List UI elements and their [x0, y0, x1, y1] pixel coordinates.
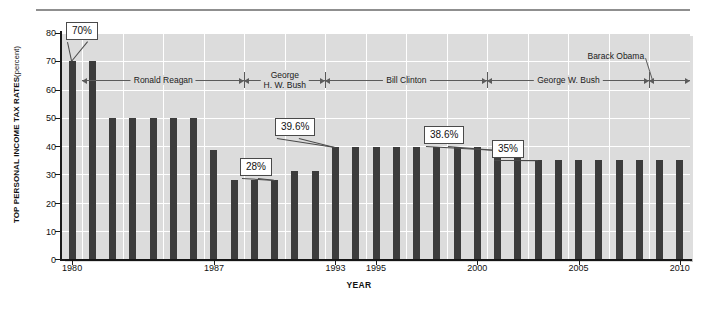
gridline-h-60 [62, 90, 690, 91]
y-tick-70 [55, 61, 60, 62]
x-tick-label-2010: 2010 [670, 263, 690, 273]
gridline-v [285, 33, 286, 259]
y-tick-label-40: 40 [32, 143, 56, 152]
y-tick-30 [55, 174, 60, 175]
bar-2007 [616, 160, 623, 259]
gridline-h-80 [62, 33, 690, 34]
plot-shadow-bottom [65, 259, 693, 262]
bar-1992 [312, 171, 319, 259]
bar-1999 [454, 147, 461, 259]
gridline-v [609, 33, 610, 259]
y-tick-10 [55, 231, 60, 232]
bar-1993 [332, 147, 339, 259]
bar-1996 [393, 147, 400, 259]
bar-1980 [69, 61, 76, 259]
plot-area: Ronald ReaganGeorgeH. W. BushBill Clinto… [62, 33, 690, 259]
bar-1987 [210, 150, 217, 259]
gridline-h-70 [62, 61, 690, 62]
callout-35: 35% [492, 140, 524, 158]
bar-2003 [535, 160, 542, 259]
y-axis-title-main: TOP PERSONAL INCOME TAX RATES [12, 77, 21, 223]
gridline-v [163, 33, 164, 259]
y-tick-50 [55, 118, 60, 119]
chart-root: 80 70 60 50 40 30 20 10 0 TOP PERSONAL I… [0, 0, 718, 316]
gridline-v [568, 33, 569, 259]
bar-2008 [636, 160, 643, 259]
y-tick-label-80: 80 [32, 29, 56, 38]
top-divider-rule [36, 9, 690, 11]
y-tick-0 [55, 259, 60, 260]
gridline-v [366, 33, 367, 259]
bar-2001 [494, 150, 501, 259]
gridline-v [82, 33, 83, 259]
bar-2006 [595, 160, 602, 259]
presidency-label-obama: Barack Obama [587, 51, 644, 61]
y-tick-label-20: 20 [32, 200, 56, 209]
y-tick-label-70: 70 [32, 57, 56, 66]
y-tick-label-10: 10 [32, 228, 56, 237]
y-tick-40 [55, 146, 60, 147]
bar-1982 [109, 118, 116, 259]
bar-1984 [150, 118, 157, 259]
y-tick-label-0: 0 [32, 256, 56, 265]
y-tick-60 [55, 90, 60, 91]
y-axis-title: TOP PERSONAL INCOME TAX RATES(percent) [12, 35, 21, 235]
y-tick-label-60: 60 [32, 86, 56, 95]
x-tick-label-1980: 1980 [62, 263, 82, 273]
callout-leader [510, 160, 538, 161]
callout-70: 70% [66, 22, 98, 40]
y-axis-title-unit: (percent) [12, 46, 21, 77]
bar-1990 [271, 180, 278, 259]
plot-shadow-right [690, 36, 693, 262]
bar-1986 [190, 118, 197, 259]
gridline-v [487, 33, 488, 259]
bar-1997 [413, 147, 420, 259]
bar-2002 [514, 150, 521, 259]
bar-1988 [231, 180, 238, 259]
gridline-v [123, 33, 124, 259]
bar-1998 [433, 147, 440, 259]
y-tick-80 [55, 33, 60, 34]
x-tick-label-1993: 1993 [325, 263, 345, 273]
bar-2000 [474, 147, 481, 259]
x-axis-title: YEAR [0, 280, 718, 290]
y-tick-label-50: 50 [32, 114, 56, 123]
gridline-v [649, 33, 650, 259]
bar-2005 [575, 160, 582, 259]
bar-1995 [373, 147, 380, 259]
y-tick-label-30: 30 [32, 171, 56, 180]
callout-28: 28% [240, 158, 272, 176]
y-tick-20 [55, 203, 60, 204]
gridline-v [244, 33, 245, 259]
gridline-v [204, 33, 205, 259]
gridline-v [406, 33, 407, 259]
bar-1994 [352, 147, 359, 259]
bar-1989 [251, 180, 258, 259]
gridline-v [528, 33, 529, 259]
callout-386: 38.6% [424, 126, 464, 144]
callout-396: 39.6% [275, 118, 315, 136]
bar-2004 [555, 160, 562, 259]
bar-2010 [676, 160, 683, 259]
x-tick-label-1995: 1995 [366, 263, 386, 273]
x-tick-label-2005: 2005 [569, 263, 589, 273]
presidency-line-4 [649, 80, 690, 81]
bar-1981 [89, 61, 96, 259]
bar-1983 [129, 118, 136, 259]
y-axis-labels: 80 70 60 50 40 30 20 10 0 [28, 0, 56, 316]
bar-1985 [170, 118, 177, 259]
bar-1991 [291, 171, 298, 259]
x-tick-label-1987: 1987 [204, 263, 224, 273]
x-tick-label-2000: 2000 [467, 263, 487, 273]
bar-2009 [656, 160, 663, 259]
